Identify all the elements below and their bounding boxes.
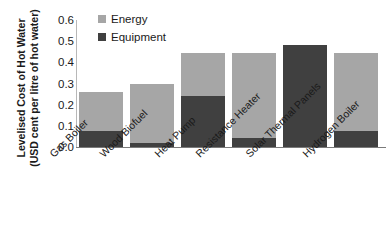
bar-resistance-heater bbox=[232, 53, 276, 147]
bar-segment-energy bbox=[334, 53, 378, 131]
bar-segment-energy bbox=[130, 84, 174, 143]
x-axis-line bbox=[76, 147, 386, 148]
y-tick-label: 0.1 bbox=[48, 120, 74, 132]
chart-container: Levelised Cost of Hot Water (USD cent pe… bbox=[0, 0, 391, 248]
bar-segment-energy bbox=[79, 92, 123, 131]
legend-label: Energy bbox=[111, 13, 147, 25]
y-tick-label: 0.4 bbox=[48, 56, 74, 68]
bar-gas-boiler bbox=[79, 92, 123, 147]
legend-item-equipment: Equipment bbox=[98, 30, 166, 43]
bar-segment-equipment bbox=[181, 96, 225, 147]
legend-label: Equipment bbox=[111, 31, 166, 43]
y-tick-label: 0.2 bbox=[48, 99, 74, 111]
bar-hydrogen-boiler bbox=[334, 53, 378, 147]
bar-wood-biofuel bbox=[130, 84, 174, 147]
legend-swatch-icon bbox=[98, 33, 106, 41]
bar-segment-energy bbox=[181, 53, 225, 96]
legend-swatch-icon bbox=[98, 15, 106, 23]
bar-heat-pump bbox=[181, 53, 225, 147]
y-tick-label: 0.0 bbox=[48, 141, 74, 153]
bar-segment-energy bbox=[232, 53, 276, 138]
bar-segment-equipment bbox=[79, 131, 123, 147]
y-tick-label: 0.3 bbox=[48, 78, 74, 90]
y-axis-title: Levelised Cost of Hot Water (USD cent pe… bbox=[11, 13, 45, 163]
bar-segment-equipment bbox=[334, 131, 378, 147]
chart-legend: Energy Equipment bbox=[98, 12, 166, 43]
y-axis-title-line-2: (USD cent per litre of hot water) bbox=[28, 9, 41, 167]
y-axis-title-line-1: Levelised Cost of Hot Water bbox=[15, 18, 28, 157]
bar-solar-thermal-panels bbox=[283, 45, 327, 147]
y-tick-label: 0.5 bbox=[48, 35, 74, 47]
bar-segment-equipment bbox=[283, 45, 327, 147]
y-tick-label: 0.6 bbox=[48, 14, 74, 26]
bar-segment-equipment bbox=[130, 143, 174, 147]
legend-item-energy: Energy bbox=[98, 12, 166, 25]
y-axis-tick-labels: 0.6 0.5 0.4 0.3 0.2 0.1 0.0 bbox=[48, 0, 74, 248]
bar-segment-equipment bbox=[232, 138, 276, 148]
